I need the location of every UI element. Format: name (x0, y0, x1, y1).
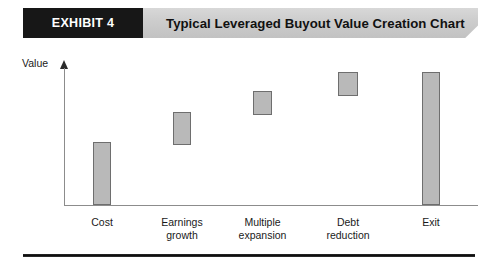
footer-rule (23, 254, 475, 257)
exhibit-number-label: EXHIBIT 4 (52, 16, 114, 30)
y-axis-title: Value (22, 57, 48, 69)
x-axis-label-line: reduction (288, 229, 408, 242)
x-axis-label-exit: Exit (371, 216, 491, 229)
value-creation-waterfall-chart: Value Cost Earningsgrowth Multipleexpans… (0, 38, 494, 253)
bar-exit (422, 72, 440, 205)
bar-debt-reduction (338, 72, 358, 96)
bar-earnings-growth (173, 112, 191, 145)
exhibit-header-banner: EXHIBIT 4 Typical Leveraged Buyout Value… (23, 8, 478, 38)
y-axis-line (64, 68, 65, 205)
exhibit-title: Typical Leveraged Buyout Value Creation … (166, 8, 465, 38)
x-axis-label-line: Exit (371, 216, 491, 229)
exhibit-number-tag: EXHIBIT 4 (23, 8, 143, 38)
bar-cost (93, 142, 111, 205)
x-axis-line (64, 205, 478, 206)
bar-multiple-expansion (253, 91, 272, 115)
